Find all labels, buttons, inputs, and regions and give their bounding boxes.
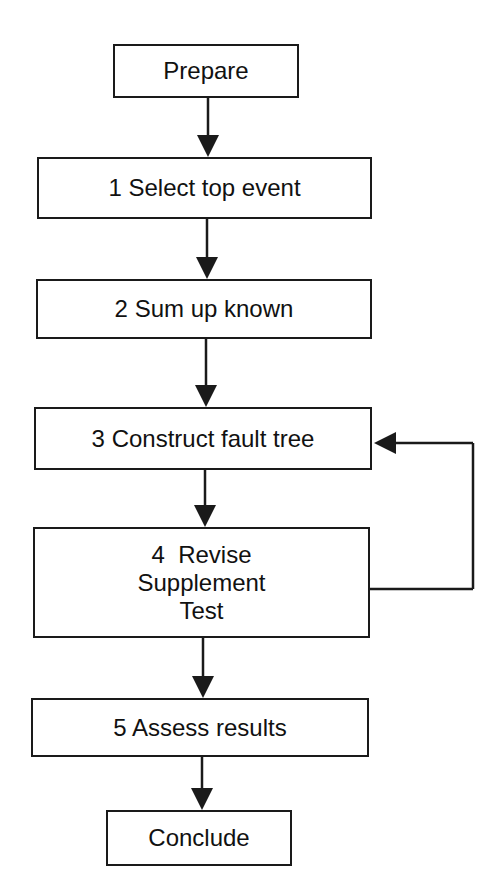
node-label: 5 Assess results — [113, 714, 286, 742]
node-label-line-3: Test — [179, 597, 223, 625]
node-prepare: Prepare — [113, 44, 299, 98]
node-label: Prepare — [163, 57, 248, 85]
arrow-down-icon — [194, 505, 216, 527]
arrow-down-icon — [195, 385, 217, 407]
arrow-down-icon — [192, 676, 214, 698]
flowchart-canvas: Prepare 1 Select top event 2 Sum up know… — [0, 0, 501, 896]
node-label: 1 Select top event — [108, 174, 300, 202]
node-label: Conclude — [148, 824, 249, 852]
arrow-down-icon — [196, 257, 218, 279]
node-sum-up-known: 2 Sum up known — [36, 279, 372, 339]
node-label: 2 Sum up known — [115, 295, 294, 323]
node-assess-results: 5 Assess results — [31, 698, 369, 757]
node-select-top-event: 1 Select top event — [37, 157, 372, 219]
node-construct-fault-tree: 3 Construct fault tree — [34, 407, 372, 470]
arrow-down-icon — [191, 788, 213, 810]
arrow-down-icon — [197, 135, 219, 157]
node-conclude: Conclude — [106, 810, 292, 866]
node-label: 3 Construct fault tree — [92, 425, 315, 453]
node-label-line-2: Supplement — [137, 569, 265, 597]
arrow-left-icon — [374, 432, 396, 454]
node-revise-supplement-test: 4 Revise Supplement Test — [33, 527, 370, 638]
node-label-line-1: 4 Revise — [151, 541, 251, 569]
